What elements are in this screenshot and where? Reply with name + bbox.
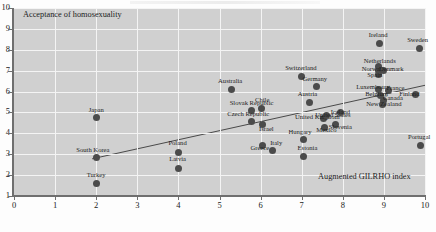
x-axis-tick-label: 4	[168, 200, 188, 210]
x-axis-tick-label: 0	[4, 200, 24, 210]
data-point	[93, 114, 100, 121]
data-point-label: Austria	[298, 90, 317, 97]
data-point	[228, 86, 235, 93]
data-point-label: Estonia	[298, 144, 318, 151]
y-axis-tick	[8, 29, 14, 30]
data-point-label: Netherlands	[364, 57, 396, 64]
x-axis-title: Augmented GILRHO index	[318, 172, 411, 181]
gridline-vertical	[343, 8, 344, 196]
x-axis-tick-label: 7	[292, 200, 312, 210]
x-axis-tick-label: 8	[333, 200, 353, 210]
data-point	[306, 99, 313, 106]
data-point	[175, 165, 182, 172]
gridline-vertical	[55, 8, 56, 196]
cropped-caption-strip	[130, 1, 320, 4]
data-point	[416, 45, 423, 52]
y-axis-tick	[8, 154, 14, 155]
x-axis-tick-label: 3	[127, 200, 147, 210]
data-point-label: Greece	[250, 144, 269, 151]
data-point-label: Iceland	[331, 108, 350, 115]
gridline-vertical	[220, 8, 221, 196]
y-axis-tick	[8, 71, 14, 72]
gridline-horizontal	[14, 154, 425, 155]
x-axis-tick-label: 9	[374, 200, 394, 210]
gridline-horizontal	[14, 92, 425, 93]
data-point-label: Turkey	[87, 171, 106, 178]
data-point-label: Chile	[255, 96, 269, 103]
y-axis-line	[12, 8, 14, 196]
data-point-label: Israel	[259, 125, 274, 132]
gridline-horizontal	[14, 29, 425, 30]
data-point-label: Spain	[367, 71, 382, 78]
data-point-label: Japan	[89, 106, 104, 113]
data-point-label: Germany	[303, 75, 328, 82]
data-point-label: Switzerland	[285, 64, 317, 71]
plot-area: JapanSouth KoreaTurkeyPolandLatviaAustra…	[14, 8, 425, 196]
x-axis-line	[12, 195, 425, 197]
data-point-label: Sweden	[407, 36, 428, 43]
x-axis-tick-label: 5	[210, 200, 230, 210]
data-point	[300, 153, 307, 160]
gridline-horizontal	[14, 133, 425, 134]
data-point-label: Denmark	[379, 65, 404, 72]
y-axis-tick	[8, 112, 14, 113]
data-point-label: Italy	[270, 139, 282, 146]
data-point	[300, 136, 307, 143]
y-axis-tick	[8, 8, 14, 9]
data-point	[269, 147, 276, 154]
gridline-vertical	[302, 8, 303, 196]
y-axis-title: Acceptance of homosexuality	[23, 10, 133, 21]
data-point-label: Ireland	[369, 31, 388, 38]
data-point-label: Portugal	[408, 133, 430, 140]
x-axis-tick-label: 10	[415, 200, 435, 210]
chart-figure: JapanSouth KoreaTurkeyPolandLatviaAustra…	[0, 0, 436, 232]
data-point-label: New Zealand	[366, 100, 401, 107]
gridline-horizontal	[14, 8, 425, 9]
y-axis-tick	[8, 133, 14, 134]
gridline-horizontal	[14, 112, 425, 113]
data-point-label: Australia	[218, 77, 242, 84]
y-axis-tick	[8, 50, 14, 51]
x-axis-tick-label: 1	[45, 200, 65, 210]
data-point-label: Hungary	[289, 128, 312, 135]
y-axis-tick	[8, 175, 14, 176]
data-point-label: Poland	[168, 139, 186, 146]
y-axis-tick	[8, 92, 14, 93]
data-point-label: Slovenia	[329, 123, 352, 130]
gridline-horizontal	[14, 50, 425, 51]
data-point-label: Latvia	[169, 155, 186, 162]
x-axis-tick-label: 2	[86, 200, 106, 210]
gridline-vertical	[137, 8, 138, 196]
data-point-label: South Korea	[76, 146, 109, 153]
y-axis-ticklabels: 10987654321	[0, 0, 10, 232]
gridline-vertical	[96, 8, 97, 196]
x-axis-tick-label: 6	[251, 200, 271, 210]
